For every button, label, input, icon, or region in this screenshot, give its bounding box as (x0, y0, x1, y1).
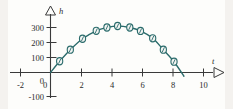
y-axis-label: h (59, 6, 63, 16)
y-tick-label: 100 (31, 53, 44, 63)
x-tick-label: 10 (199, 80, 208, 90)
x-axis-label: t (212, 56, 215, 66)
y-tick-label: 300 (31, 23, 44, 33)
x-tick-label: 6 (140, 80, 144, 90)
page-smudge (225, 0, 233, 109)
triangle-right-icon (214, 68, 224, 78)
y-tick-label: -100 (28, 92, 44, 102)
y-tick-label: 200 (31, 38, 44, 48)
page-smudge (0, 0, 8, 109)
x-tick-label: 4 (110, 80, 115, 90)
y-tick-label: 0 (40, 76, 44, 86)
x-tick-label: 2 (79, 80, 83, 90)
triangle-up-icon (46, 6, 56, 15)
y-tick-group (47, 28, 57, 97)
x-tick-label: 8 (171, 80, 175, 90)
height-vs-time-chart: h t -2 0 2 4 6 8 10 -100 0 100 200 (0, 0, 233, 109)
plot-area: h t -2 0 2 4 6 8 10 -100 0 100 200 (0, 0, 233, 109)
x-tick-label: -2 (17, 80, 24, 90)
